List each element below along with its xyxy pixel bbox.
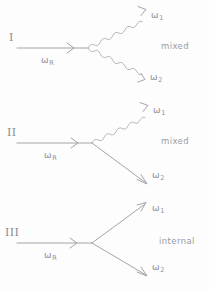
omega-glyph: ω <box>151 10 159 20</box>
omega-subscript: 1 <box>161 109 166 117</box>
omega-subscript: R <box>49 59 54 67</box>
omega-glyph: ω <box>152 170 160 180</box>
diagram-I-caption: mixed <box>161 41 189 51</box>
diagram-I-numeral: I <box>9 31 14 44</box>
diagram-I-out-upper-label: ω1 <box>151 10 163 20</box>
diagram-I-out-lower-label: ω2 <box>150 72 162 82</box>
omega-subscript: 1 <box>160 207 165 215</box>
omega-subscript: R <box>52 254 57 262</box>
diagram-II-incoming-label: ωR <box>44 150 57 160</box>
diagram-II-caption: mixed <box>161 136 189 146</box>
diagram-III-caption: internal <box>159 236 195 246</box>
diagram-II-graphics <box>17 103 148 185</box>
omega-glyph: ω <box>44 250 52 260</box>
diagram-III-out-lower-label: ω2 <box>152 262 164 272</box>
diagram-III-lower-line <box>92 243 146 275</box>
diagram-II-upper-arrowhead <box>140 103 148 112</box>
omega-glyph: ω <box>152 262 160 272</box>
diagram-III-graphics <box>17 203 147 277</box>
omega-glyph: ω <box>44 150 52 160</box>
omega-glyph: ω <box>152 203 160 213</box>
omega-subscript: 2 <box>160 174 165 182</box>
omega-glyph: ω <box>41 55 49 65</box>
omega-subscript: 1 <box>159 14 164 22</box>
diagram-II-out-upper-label: ω1 <box>153 105 165 115</box>
diagram-II-upper-wavy-line <box>92 117 145 143</box>
diagram-I-lower-wavy-line <box>88 48 142 75</box>
diagram-I-upper-arrowhead <box>138 7 146 16</box>
diagram-II-lower-line <box>92 143 146 183</box>
diagram-I-upper-wavy-line <box>88 21 142 48</box>
diagram-III-out-upper-label: ω1 <box>152 203 164 213</box>
omega-glyph: ω <box>150 72 158 82</box>
diagram-II-numeral: II <box>7 126 17 139</box>
omega-subscript: 2 <box>160 266 165 274</box>
diagram-II-out-lower-label: ω2 <box>152 170 164 180</box>
diagram-III-numeral: III <box>5 226 19 239</box>
omega-glyph: ω <box>153 105 161 115</box>
omega-subscript: 2 <box>158 76 163 84</box>
figure-canvas: I ωR ω1 ω2 mixed II ωR ω1 ω2 mixed III ω… <box>0 0 209 290</box>
diagram-III-upper-line <box>92 204 145 243</box>
diagram-III-incoming-label: ωR <box>44 250 57 260</box>
omega-subscript: R <box>52 154 57 162</box>
diagram-I-incoming-label: ωR <box>41 55 54 65</box>
diagram-I-graphics <box>17 7 146 83</box>
